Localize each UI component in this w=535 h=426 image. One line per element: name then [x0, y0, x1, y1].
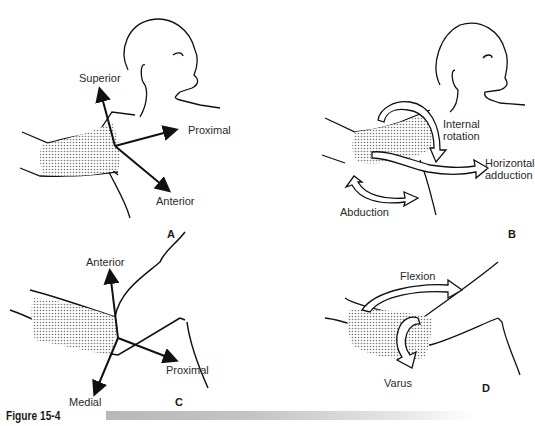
caption-rule — [106, 411, 474, 420]
panel-a-drawing — [20, 19, 220, 218]
label-horizontal-adduction-line2: adduction — [485, 169, 533, 182]
label-anterior-a: Anterior — [156, 195, 195, 208]
panel-label-b: B — [508, 228, 516, 240]
label-proximal-c: Proximal — [166, 364, 209, 377]
panel-label-d: D — [482, 382, 490, 394]
figure-caption: Figure 15-4 — [6, 409, 60, 423]
anatomy-illustration — [0, 0, 535, 426]
label-abduction: Abduction — [340, 206, 389, 219]
label-superior-a: Superior — [79, 72, 121, 85]
label-flexion: Flexion — [400, 270, 435, 283]
label-proximal-a: Proximal — [188, 124, 231, 137]
label-varus: Varus — [384, 377, 412, 390]
panel-label-c: C — [175, 396, 183, 408]
panel-b-drawing — [322, 23, 525, 215]
label-internal-rotation-line2: rotation — [443, 130, 480, 143]
label-anterior-c: Anterior — [86, 256, 125, 269]
panel-label-a: A — [167, 228, 175, 240]
label-medial-c: Medial — [69, 396, 101, 409]
